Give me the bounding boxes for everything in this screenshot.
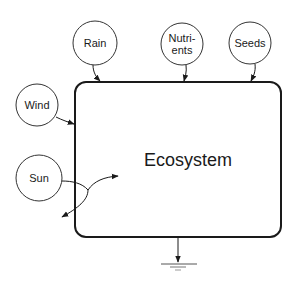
rain-label: Rain — [84, 37, 107, 49]
rain-arrow — [93, 65, 100, 81]
rain-node: Rain — [73, 21, 117, 65]
ecosystem-diagram: Ecosystem Rain Nutri- ents Seeds Wind Su… — [0, 0, 294, 285]
nutrients-label-line1: Nutri- — [169, 32, 196, 44]
wind-label: Wind — [24, 99, 49, 111]
wind-node: Wind — [16, 84, 58, 126]
sun-label: Sun — [29, 172, 49, 184]
seeds-label: Seeds — [234, 37, 266, 49]
ecosystem-label: Ecosystem — [144, 150, 232, 170]
seeds-arrow — [251, 64, 255, 81]
wind-arrow — [56, 117, 74, 124]
ground-sink — [161, 237, 197, 270]
nutrients-node: Nutri- ents — [161, 23, 203, 65]
nutrients-arrow — [184, 65, 186, 81]
sun-absorbed-arrow — [88, 176, 118, 190]
sun-node: Sun — [16, 155, 62, 201]
ecosystem-box: Ecosystem — [75, 82, 281, 237]
nutrients-label-line2: ents — [172, 44, 193, 56]
seeds-node: Seeds — [229, 22, 271, 64]
